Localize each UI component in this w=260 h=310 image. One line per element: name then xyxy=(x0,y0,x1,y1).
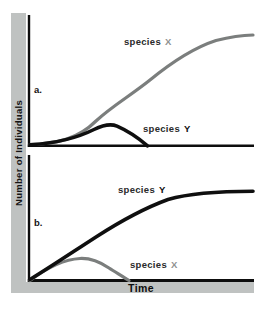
species-letter-y: Y xyxy=(159,184,166,195)
panel-a-species-x-label: speciesX xyxy=(124,36,172,47)
species-letter-x: X xyxy=(171,259,178,270)
species-letter-x: X xyxy=(165,36,172,47)
panel-a-label: a. xyxy=(34,84,42,95)
panel-a-species-x-curve xyxy=(30,35,253,145)
panel-b-label: b. xyxy=(34,217,42,228)
panel-b-species-y-label: speciesY xyxy=(118,184,166,195)
figure-competitive-exclusion: Number of Individuals a. b. speciesX spe… xyxy=(0,0,260,310)
species-letter-y: Y xyxy=(184,123,191,134)
x-axis-title: Time xyxy=(111,282,171,294)
species-word: species xyxy=(143,123,180,134)
panel-a-species-y-label: speciesY xyxy=(143,123,191,134)
panel-b-species-x-label: speciesX xyxy=(130,259,178,270)
species-word: species xyxy=(130,259,167,270)
species-word: species xyxy=(124,36,161,47)
species-word: species xyxy=(118,184,155,195)
